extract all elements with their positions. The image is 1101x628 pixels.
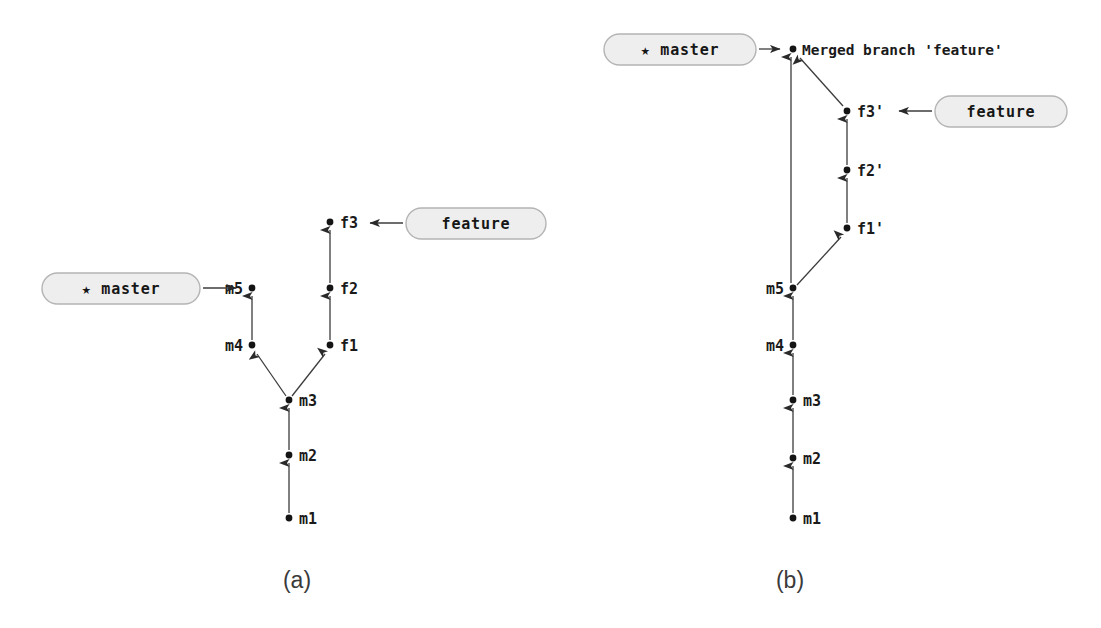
panel-b-edges bbox=[791, 57, 847, 513]
ref-text-master-b: ★ master bbox=[641, 41, 720, 59]
commit-node-m2[interactable] bbox=[286, 452, 293, 459]
commit-node-m4[interactable] bbox=[249, 342, 256, 349]
figure-canvas: m1 m2 m3 m4 m5 f1 f2 f3 ★ master feature bbox=[0, 0, 1101, 628]
ref-label-master-b[interactable]: ★ master bbox=[604, 34, 780, 65]
ref-text-master-a: ★ master bbox=[82, 280, 161, 298]
commit-node-b-m3[interactable] bbox=[790, 397, 797, 404]
caption-b: (b) bbox=[776, 567, 804, 593]
commit-node-b-merge[interactable] bbox=[790, 46, 797, 53]
commit-label-m2: m2 bbox=[299, 447, 317, 465]
commit-node-b-m4[interactable] bbox=[790, 342, 797, 349]
commit-node-b-m1[interactable] bbox=[790, 515, 797, 522]
git-branching-figure: m1 m2 m3 m4 m5 f1 f2 f3 ★ master feature bbox=[0, 0, 1101, 628]
ref-label-feature-b[interactable]: feature bbox=[899, 96, 1067, 127]
commit-node-m1[interactable] bbox=[286, 515, 293, 522]
commit-node-f1[interactable] bbox=[327, 342, 334, 349]
commit-label-f2: f2 bbox=[340, 280, 358, 298]
commit-label-b-merge: Merged branch 'feature' bbox=[802, 42, 1003, 58]
commit-node-b-f1p[interactable] bbox=[844, 225, 851, 232]
commit-label-b-m1: m1 bbox=[803, 510, 821, 528]
ref-text-feature-a: feature bbox=[442, 215, 511, 233]
edge-b-f3p-merge bbox=[800, 58, 843, 106]
commit-label-b-m4: m4 bbox=[766, 337, 784, 355]
commit-label-b-m3: m3 bbox=[803, 392, 821, 410]
commit-node-f2[interactable] bbox=[327, 285, 334, 292]
commit-label-b-m5: m5 bbox=[766, 280, 784, 298]
panel-a: m1 m2 m3 m4 m5 f1 f2 f3 ★ master feature bbox=[42, 208, 546, 593]
ref-label-feature-a[interactable]: feature bbox=[370, 208, 546, 239]
edge-m3-m4 bbox=[257, 354, 286, 396]
commit-node-b-m2[interactable] bbox=[790, 455, 797, 462]
caption-a: (a) bbox=[283, 567, 311, 593]
panel-a-nodes bbox=[249, 219, 334, 522]
commit-label-m4: m4 bbox=[225, 337, 243, 355]
commit-label-f3: f3 bbox=[340, 214, 358, 232]
ref-label-master-a[interactable]: ★ master bbox=[42, 273, 236, 304]
commit-node-m3[interactable] bbox=[286, 397, 293, 404]
commit-node-b-m5[interactable] bbox=[790, 285, 797, 292]
panel-a-commit-labels: m1 m2 m3 m4 m5 f1 f2 f3 bbox=[225, 214, 358, 528]
edge-m3-f1 bbox=[292, 354, 325, 396]
commit-label-m1: m1 bbox=[299, 510, 317, 528]
commit-label-b-f2p: f2' bbox=[857, 162, 884, 180]
commit-node-b-f3p[interactable] bbox=[844, 108, 851, 115]
commit-node-f3[interactable] bbox=[327, 219, 334, 226]
panel-a-edges bbox=[252, 230, 330, 513]
commit-label-m5: m5 bbox=[225, 280, 243, 298]
commit-label-b-f3p: f3' bbox=[857, 103, 884, 121]
ref-text-feature-b: feature bbox=[967, 103, 1036, 121]
commit-label-b-f1p: f1' bbox=[857, 220, 884, 238]
commit-label-b-m2: m2 bbox=[803, 450, 821, 468]
commit-node-m5[interactable] bbox=[249, 285, 256, 292]
commit-label-f1: f1 bbox=[340, 337, 358, 355]
commit-label-m3: m3 bbox=[299, 392, 317, 410]
edge-b-m5-f1p bbox=[797, 237, 841, 285]
commit-node-b-f2p[interactable] bbox=[844, 167, 851, 174]
panel-b: m1 m2 m3 m4 m5 f1' f2' f3' Merged branch… bbox=[604, 34, 1067, 593]
